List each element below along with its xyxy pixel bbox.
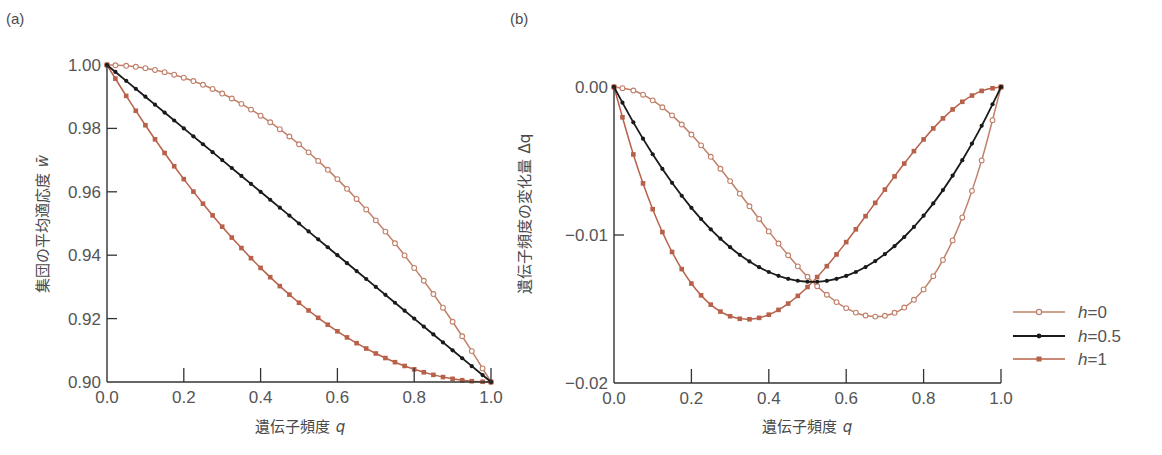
filled-square-marker-icon: [470, 379, 475, 384]
filled-square-marker-icon: [134, 108, 139, 113]
open-circle-marker-icon: [805, 274, 810, 279]
plot-area: [105, 63, 494, 385]
filled-square-marker-icon: [191, 189, 196, 194]
open-circle-marker-icon: [143, 66, 148, 71]
filled-square-marker-icon: [990, 86, 995, 91]
filled-square-marker-icon: [970, 93, 975, 98]
filled-dot-marker-icon: [738, 253, 742, 257]
open-circle-marker-icon: [641, 92, 646, 97]
y-tick-label: 0.92: [68, 310, 101, 329]
filled-dot-marker-icon: [345, 261, 349, 265]
filled-dot-marker-icon: [980, 124, 984, 128]
open-circle-marker-icon: [297, 142, 302, 147]
filled-square-marker-icon: [201, 201, 206, 206]
open-circle-marker-icon: [421, 278, 426, 283]
filled-square-marker-icon: [335, 329, 340, 334]
y-tick-label: 0.90: [68, 373, 101, 392]
legend-label-h1: h=1: [1078, 350, 1107, 369]
series-line: [614, 87, 1001, 319]
legend-item-h1: h=1: [1013, 350, 1107, 369]
filled-square-marker-icon: [153, 137, 158, 142]
filled-square-marker-icon: [912, 149, 917, 154]
filled-square-marker-icon: [786, 301, 791, 306]
filled-dot-marker-icon: [699, 217, 703, 221]
filled-square-marker-icon: [737, 316, 742, 321]
filled-dot-marker-icon: [951, 174, 955, 178]
open-circle-marker-icon: [133, 64, 138, 69]
open-circle-marker-icon: [181, 75, 186, 80]
open-circle-marker-icon: [162, 70, 167, 75]
filled-square-marker-icon: [326, 322, 331, 327]
filled-dot-marker-icon: [883, 252, 887, 256]
plot-area: [612, 85, 1004, 322]
open-circle-marker-icon: [795, 264, 800, 269]
filled-dot-marker-icon: [912, 225, 916, 229]
axes: 0.00.20.40.60.81.00.900.920.940.960.981.…: [68, 56, 503, 407]
open-circle-marker-icon: [412, 265, 417, 270]
filled-square-marker-icon: [718, 309, 723, 314]
legend-label-h05: h=0.5: [1078, 327, 1121, 346]
open-circle-marker-icon: [902, 305, 907, 310]
filled-square-marker-icon: [124, 94, 129, 99]
filled-dot-marker-icon: [941, 188, 945, 192]
filled-dot-marker-icon: [211, 150, 215, 154]
open-circle-marker-icon: [689, 132, 694, 137]
filled-square-marker-icon: [297, 300, 302, 305]
open-circle-marker-icon: [921, 287, 926, 292]
open-circle-marker-icon: [469, 349, 474, 354]
filled-square-marker-icon: [268, 275, 273, 280]
filled-dot-marker-icon: [651, 152, 655, 156]
filled-square-marker-icon: [113, 76, 118, 81]
filled-dot-marker-icon: [153, 103, 157, 107]
filled-square-marker-icon: [844, 240, 849, 245]
open-circle-marker-icon: [786, 253, 791, 258]
figure: (a) 0.00.20.40.60.81.00.900.920.940.960.…: [0, 0, 1162, 455]
open-circle-marker-icon: [335, 177, 340, 182]
open-circle-marker-icon: [325, 167, 330, 172]
filled-dot-marker-icon: [393, 301, 397, 305]
series-h1: [612, 85, 1004, 322]
filled-dot-marker-icon: [297, 221, 301, 225]
open-circle-marker-icon: [383, 229, 388, 234]
filled-square-marker-icon: [182, 177, 187, 182]
open-circle-marker-icon: [853, 310, 858, 315]
filled-square-marker-icon: [431, 373, 436, 378]
filled-dot-marker-icon: [220, 158, 224, 162]
filled-square-marker-icon: [278, 284, 283, 289]
y-tick-label: 0.00: [575, 78, 608, 97]
open-circle-marker-icon: [249, 107, 254, 112]
open-circle-marker-icon: [306, 150, 311, 155]
y-tick-label: 0.94: [68, 246, 101, 265]
open-circle-marker-icon: [892, 310, 897, 315]
x-tick-label: 0.2: [680, 389, 704, 408]
filled-dot-marker-icon: [364, 277, 368, 281]
filled-dot-marker-icon: [873, 259, 877, 263]
filled-square-marker-icon: [960, 99, 965, 104]
open-circle-marker-icon: [620, 86, 625, 91]
filled-dot-marker-icon: [383, 293, 387, 297]
open-circle-marker-icon: [480, 366, 485, 371]
filled-square-marker-icon: [728, 314, 733, 319]
filled-square-marker-icon: [747, 317, 752, 322]
open-circle-marker-icon: [824, 292, 829, 297]
filled-dot-marker-icon: [844, 274, 848, 278]
filled-dot-marker-icon: [728, 245, 732, 249]
x-axis-title: 遺伝子頻度q: [762, 418, 853, 436]
series-h05: [105, 63, 493, 384]
filled-dot-marker-icon: [1037, 334, 1042, 339]
filled-square-marker-icon: [220, 224, 225, 229]
filled-dot-marker-icon: [316, 237, 320, 241]
open-circle-marker-icon: [990, 118, 995, 123]
filled-dot-marker-icon: [863, 265, 867, 269]
panel-a-mean-fitness-chart: (a) 0.00.20.40.60.81.00.900.920.940.960.…: [6, 10, 503, 436]
y-axis-title: 集団の平均適応度w̄: [34, 154, 52, 293]
open-circle-marker-icon: [354, 197, 359, 202]
filled-square-marker-icon: [383, 356, 388, 361]
filled-square-marker-icon: [921, 137, 926, 142]
filled-dot-marker-icon: [786, 277, 790, 281]
filled-dot-marker-icon: [259, 190, 263, 194]
open-circle-marker-icon: [728, 179, 733, 184]
filled-square-marker-icon: [679, 267, 684, 272]
open-circle-marker-icon: [931, 274, 936, 279]
open-circle-marker-icon: [844, 306, 849, 311]
